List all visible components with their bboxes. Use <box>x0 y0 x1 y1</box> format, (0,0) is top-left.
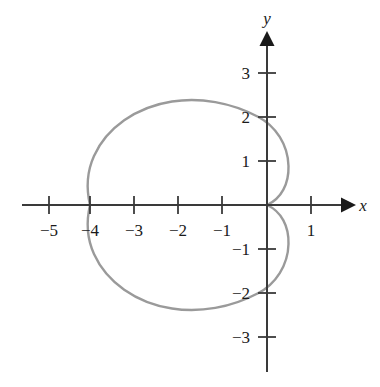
y-axis-group: 3 2 1 −1 −2 −3 y <box>232 9 276 372</box>
y-tick-label-1: 1 <box>242 152 251 171</box>
x-axis-arrowhead <box>341 198 356 213</box>
x-tick-label-1: 1 <box>307 221 316 240</box>
y-tick-label--1: −1 <box>232 240 250 259</box>
x-tick-label--5: −5 <box>40 221 58 240</box>
x-tick-label--3: −3 <box>125 221 143 240</box>
x-axis-group: −5 −4 −3 −2 −1 1 x <box>22 196 367 240</box>
y-tick-label-2: 2 <box>242 108 251 127</box>
cardioid-plot-figure: −5 −4 −3 −2 −1 1 x 3 2 1 −1 −2 −3 <box>0 0 380 387</box>
y-tick-label--2: −2 <box>232 284 250 303</box>
x-axis-label: x <box>358 196 367 215</box>
y-axis-label: y <box>261 9 271 28</box>
y-tick-label-3: 3 <box>242 64 251 83</box>
x-tick-label--2: −2 <box>169 221 187 240</box>
polar-cardioid-chart: −5 −4 −3 −2 −1 1 x 3 2 1 −1 −2 −3 <box>0 0 380 387</box>
x-tick-label--4: −4 <box>81 221 100 240</box>
y-axis-arrowhead <box>260 31 275 46</box>
x-tick-label--1: −1 <box>213 221 231 240</box>
y-tick-label--3: −3 <box>232 328 250 347</box>
